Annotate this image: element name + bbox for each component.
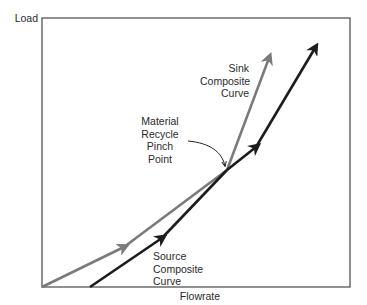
pinch-point-label: Material Recycle Pinch Point xyxy=(132,115,188,165)
source-curve-label: Source Composite Curve xyxy=(153,250,223,288)
plot-frame xyxy=(42,18,350,287)
pinch-pointer-arrow xyxy=(188,141,225,166)
sink-curve-label: Sink Composite Curve xyxy=(200,62,249,100)
x-axis-label: Flowrate xyxy=(160,290,240,303)
y-axis-label: Load xyxy=(6,12,38,25)
